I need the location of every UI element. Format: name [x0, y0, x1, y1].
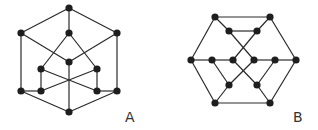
graph-b-edge-b3-b8 — [229, 31, 254, 60]
graph-a-node-a10 — [93, 87, 100, 94]
graph-a-node-a7 — [93, 65, 100, 72]
graph-a-edge-a11-a12 — [69, 91, 117, 112]
graph-a-node-a8 — [17, 87, 24, 94]
graph-b-node-b5 — [187, 56, 194, 63]
graph-b: B — [187, 13, 302, 125]
graph-a-edge-a3-a7 — [69, 33, 97, 69]
graph-a-node-a1 — [65, 4, 72, 11]
graph-b-node-b3 — [225, 27, 232, 34]
graph-b-edge-b4-b7 — [233, 31, 257, 60]
graph-b-node-b8 — [250, 56, 257, 63]
graph-a-edge-a3-a6 — [41, 33, 69, 69]
graph-a-edge-a4-a5 — [69, 33, 117, 62]
graph-a-label: A — [125, 109, 135, 125]
graph-b-node-b14 — [266, 99, 273, 106]
graph-b-node-b12 — [253, 81, 260, 88]
graph-a-node-a5 — [65, 58, 72, 65]
graph-b-edge-b9-b12 — [257, 60, 275, 85]
graph-a-node-a9 — [37, 87, 44, 94]
graph-b-node-b7 — [229, 56, 236, 63]
graph-b-edge-b5-b13 — [191, 60, 215, 103]
graph-b-node-b11 — [225, 81, 232, 88]
graph-b-node-b2 — [266, 13, 273, 20]
graph-b-label: B — [293, 109, 303, 125]
graph-b-node-b6 — [208, 56, 215, 63]
graph-a-edge-a8-a12 — [21, 91, 69, 112]
graph-a-node-a11 — [113, 87, 120, 94]
graph-a-node-a3 — [65, 29, 72, 36]
graph-a: A — [17, 4, 135, 125]
graph-b-edge-b1-b5 — [191, 17, 215, 60]
graph-a-node-a4 — [113, 29, 120, 36]
graph-a-edge-a1-a2 — [21, 8, 69, 33]
graph-b-node-b9 — [271, 56, 278, 63]
graph-b-edges — [191, 17, 296, 103]
graph-b-edge-b6-b11 — [212, 60, 229, 85]
graph-b-node-b4 — [253, 27, 260, 34]
graph-b-edge-b10-b14 — [270, 60, 296, 103]
graph-a-edge-a1-a4 — [69, 8, 117, 33]
graph-a-node-a6 — [37, 65, 44, 72]
graph-a-node-a12 — [65, 108, 72, 115]
graph-b-node-b10 — [292, 56, 299, 63]
graph-a-edge-a2-a5 — [21, 33, 69, 62]
graph-b-edge-b2-b10 — [270, 17, 296, 60]
graph-b-edge-b7-b12 — [233, 60, 257, 85]
graph-b-edge-b8-b11 — [229, 60, 254, 85]
graph-b-node-b1 — [211, 13, 218, 20]
graph-b-node-b13 — [211, 99, 218, 106]
graph-comparison-figure: A B — [0, 0, 318, 130]
graph-a-node-a2 — [17, 29, 24, 36]
